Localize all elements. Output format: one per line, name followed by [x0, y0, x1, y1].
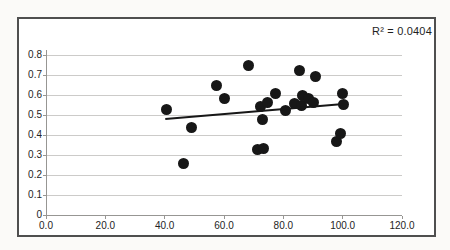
- trend-line: [165, 104, 343, 119]
- scatter-chart: R² = 0.0404 00.10.20.30.40.50.60.70.80.0…: [0, 0, 450, 250]
- trend-line-layer: [0, 0, 450, 250]
- plot-area: 00.10.20.30.40.50.60.70.80.020.040.060.0…: [0, 0, 450, 250]
